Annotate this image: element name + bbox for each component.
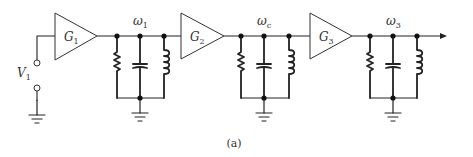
capacitor-icon [257,36,271,98]
ground-icon [29,100,45,123]
resistor-icon [367,36,373,98]
inductor-icon [289,36,294,98]
input-terminal-bottom [34,85,40,91]
resistor-icon [238,36,244,98]
output-arrow-icon [440,33,447,39]
input-terminal-top [34,60,40,66]
input-source: V1 [17,36,55,123]
tank-label-1: ω1 [133,14,148,30]
stage-3: G3 ω3 [310,13,422,121]
stage-2: G2 ωc [181,13,294,121]
tank-circuit-1 [114,36,169,98]
tuned-amplifier-schematic: V1 G1 ω1 G2 ωc G3 ω3 [0,0,473,157]
stage-1: G1 ω1 [55,13,169,121]
figure-caption: (a) [226,137,241,150]
ground-icon [385,98,401,121]
ground-icon [132,98,148,121]
capacitor-icon [386,36,400,98]
tank-label-2: ωc [257,14,272,30]
amplifier-g2 [181,13,224,59]
input-wire [37,36,55,60]
inductor-icon [164,36,169,98]
amplifier-g3 [310,13,352,59]
tank-circuit-2 [238,36,294,98]
resistor-icon [114,36,120,98]
inductor-icon [417,36,422,98]
input-label: V1 [17,66,31,82]
tank-circuit-3 [367,36,422,98]
ground-icon [256,98,272,121]
capacitor-icon [133,36,147,98]
tank-label-3: ω3 [386,14,401,30]
